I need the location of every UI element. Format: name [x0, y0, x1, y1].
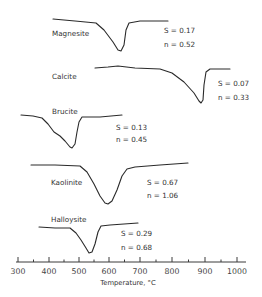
- tick-label-700: 700: [133, 267, 148, 276]
- tick-label-1000: 1000: [227, 267, 247, 276]
- brucite-n-value: n = 0.45: [116, 135, 147, 144]
- halloysite-label: Halloysite: [51, 215, 87, 224]
- calcite-s-value: S = 0.07: [218, 79, 249, 88]
- brucite-curve: [21, 115, 122, 148]
- brucite-s-value: S = 0.13: [116, 123, 147, 132]
- calcite-curve: [95, 66, 230, 103]
- tick-label-600: 600: [102, 267, 117, 276]
- dta-chart: Magnesite S = 0.17 n = 0.52 Calcite S = …: [0, 0, 262, 297]
- tick-label-900: 900: [198, 267, 213, 276]
- x-axis-title: Temperature, °C: [99, 279, 156, 287]
- kaolinite-s-value: S = 0.67: [147, 178, 178, 187]
- magnesite-label: Magnesite: [52, 29, 90, 38]
- brucite-label: Brucite: [52, 107, 78, 116]
- tick-label-800: 800: [165, 267, 180, 276]
- kaolinite-n-value: n = 1.06: [147, 191, 179, 200]
- calcite-n-value: n = 0.33: [218, 93, 249, 102]
- calcite-label: Calcite: [52, 72, 77, 81]
- kaolinite-label: Kaolinite: [51, 178, 83, 187]
- tick-label-400: 400: [42, 267, 57, 276]
- x-axis-ticks: [18, 257, 237, 262]
- magnesite-n-value: n = 0.52: [164, 40, 195, 49]
- halloysite-s-value: S = 0.29: [121, 229, 153, 238]
- magnesite-s-value: S = 0.17: [164, 26, 195, 35]
- tick-label-500: 500: [72, 267, 87, 276]
- halloysite-n-value: n = 0.68: [121, 243, 153, 252]
- tick-label-300: 300: [11, 267, 26, 276]
